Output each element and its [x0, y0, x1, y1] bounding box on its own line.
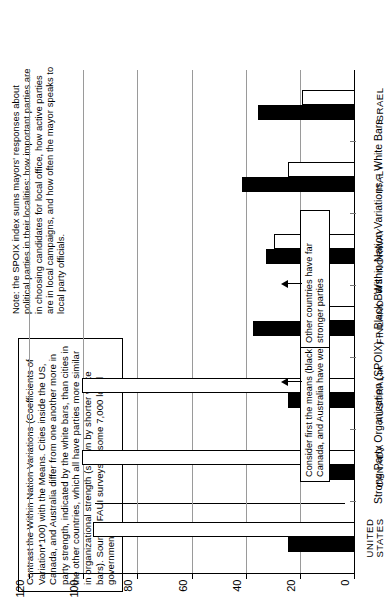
callout-strong-leader	[288, 283, 302, 284]
bar-white-israel	[302, 90, 355, 105]
callout-strong-parties: Other countries have far stronger partie…	[300, 210, 330, 348]
category-separator	[350, 141, 356, 142]
category-separator	[350, 213, 356, 214]
chart-canvas: Contrast the Within Nation Variations (C…	[0, 0, 385, 614]
gridline-100	[83, 70, 84, 574]
category-separator	[350, 501, 356, 502]
tick-120	[29, 574, 30, 579]
bar-white-united-states	[93, 522, 355, 537]
callout-weak-leader	[288, 381, 302, 382]
callout-strong-text: Other countries have far stronger partie…	[304, 243, 325, 343]
category-separator	[350, 429, 356, 430]
tick-20	[300, 574, 301, 579]
category-separator	[350, 285, 356, 286]
axis-title-black: Strong Party Organization (SPOIX) = Blac…	[372, 279, 384, 504]
bar-black-united-states	[288, 537, 355, 552]
bar-black-italy	[242, 177, 355, 192]
ytick-label-0: 0	[340, 580, 350, 610]
bar-black-israel	[258, 105, 355, 120]
tick-60	[192, 574, 193, 579]
ytick-label-80: 80	[123, 580, 133, 610]
ytick-label-60: 60	[178, 580, 188, 610]
bar-white-italy	[288, 162, 355, 177]
callout-strong-arrow-icon	[281, 280, 288, 288]
tick-80	[137, 574, 138, 579]
category-separator	[350, 357, 356, 358]
ytick-label-40: 40	[232, 580, 242, 610]
axis-titles: Strong Party Organization (SPOIX) = Blac…	[372, 54, 385, 574]
gridline-40	[246, 70, 247, 574]
gridline-80	[137, 70, 138, 574]
ytick-label-120: 120	[15, 580, 25, 610]
tick-0	[354, 574, 355, 579]
axis-title-white: Within Nation Variations = White Bars	[372, 119, 384, 294]
gridline-120	[29, 70, 30, 574]
gridline-60	[192, 70, 193, 574]
ytick-label-100: 100	[69, 580, 79, 610]
ytick-label-20: 20	[286, 580, 296, 610]
category-axis-line	[30, 573, 355, 574]
tick-40	[246, 574, 247, 579]
callout-weak-arrow-icon	[281, 378, 288, 386]
tick-100	[83, 574, 84, 579]
